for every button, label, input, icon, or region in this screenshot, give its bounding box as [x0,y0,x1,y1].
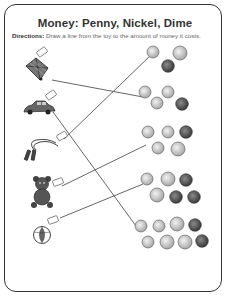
penny-coin [188,191,201,204]
coin-group-2 [139,86,188,110]
nickel-coin [150,188,164,202]
dime-coin [135,220,147,232]
nickel-coin [173,46,187,60]
dime-coin [147,46,159,58]
line-car [53,112,136,226]
line-kite [52,80,143,97]
teddy-bear-icon [31,176,64,208]
dime-coin [152,142,164,154]
penny-coin [189,219,202,232]
teddy-bear-price-tag [52,177,63,186]
car-price-tag [45,90,57,101]
penny-coin [170,191,183,204]
nickel-coin [161,172,175,186]
jump-rope-price-tag [56,131,68,141]
line-teddy-bear [62,145,146,186]
line-jump-rope [64,55,151,139]
jump-rope-icon [24,131,67,160]
car-icon [24,90,57,115]
penny-coin [162,60,175,73]
dime-coin [151,97,163,109]
penny-coin [176,98,189,111]
penny-coin [180,174,193,187]
nickel-coin [178,235,192,249]
dime-coin [142,236,154,248]
penny-coin [180,126,193,139]
coin-group-4 [141,172,200,203]
coin-group-3 [142,126,192,156]
dime-coin [162,86,174,98]
nickel-coin [171,142,185,156]
coin-group-1 [147,46,187,72]
nickel-coin [170,217,184,231]
ball-price-tag [47,215,58,224]
dime-coin [139,86,151,98]
kite-icon [26,47,48,81]
dime-coin [162,126,174,138]
nickel-coin [160,235,174,249]
match-lines [52,55,151,226]
coin-group-5 [135,217,208,249]
dime-coin [142,126,154,138]
kite-price-tag [36,47,48,58]
dime-coin [141,173,153,185]
penny-coin [196,235,209,248]
dime-coin [153,220,165,232]
line-ball [60,184,143,218]
ball-icon [34,215,59,243]
